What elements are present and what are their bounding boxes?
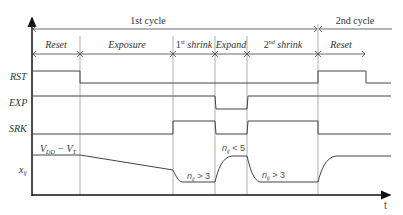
cycle-label-1: 1st cycle <box>130 15 166 26</box>
phase-label-1st-shrink: 1st shrink <box>176 39 213 50</box>
xij-annotation-shrink-1: nij > 3 <box>187 171 210 182</box>
xij-annotation-shrink-2: nij > 3 <box>262 170 285 181</box>
waveform-xij <box>32 155 391 182</box>
phase-label-expand: Expand <box>215 39 248 50</box>
waveform-srk <box>32 121 391 134</box>
waveform-rst <box>32 71 391 83</box>
phase-label-reset: Reset <box>44 39 67 50</box>
xij-start-label: VDD − VT <box>40 143 77 155</box>
timing-diagram: t 1st cycle 2nd cycle Reset Exposure 1st… <box>0 0 403 215</box>
analog-label-xij: xij <box>18 164 27 176</box>
phase-label-reset-2: Reset <box>329 39 352 50</box>
cycle-row <box>33 26 392 32</box>
signal-label-exp: EXP <box>8 97 27 108</box>
xij-annotation-expand: nij < 5 <box>222 143 245 154</box>
waveform-exp <box>32 96 391 109</box>
signal-label-srk: SRK <box>9 123 28 134</box>
phase-label-exposure: Exposure <box>107 39 146 50</box>
cycle-label-2: 2nd cycle <box>336 15 375 26</box>
signal-label-rst: RST <box>9 71 28 82</box>
time-axis-label: t <box>384 200 387 211</box>
phase-row <box>33 51 365 57</box>
phase-label-2nd-shrink: 2nd shrink <box>264 39 303 50</box>
